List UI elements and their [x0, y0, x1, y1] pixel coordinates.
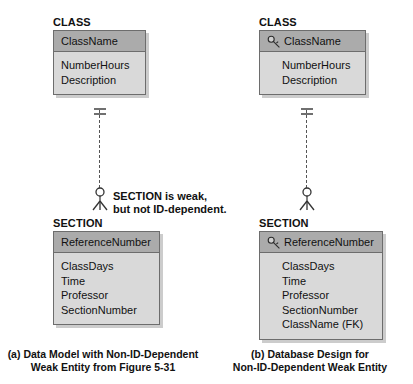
entity-header-class: ClassName: [54, 31, 145, 52]
entity-body-class: NumberHours Description: [54, 52, 145, 94]
figure-panel-a: CLASS ClassName NumberHours Description …: [0, 0, 206, 384]
entity-section: ReferenceNumber ClassDays Time Professor…: [53, 231, 160, 325]
entity-class-design: ClassName NumberHours Description: [259, 30, 366, 95]
attribute-key-referencenumber-design: ReferenceNumber: [284, 236, 374, 248]
attribute-time-design: Time: [282, 274, 375, 289]
attribute-description: Description: [61, 73, 138, 88]
annotation-weak-entity-line1: SECTION is weak,: [113, 190, 207, 204]
figure-panel-b: CLASS ClassName NumberHours Description: [207, 0, 413, 384]
attribute-sectionnumber-design: SectionNumber: [282, 303, 375, 318]
key-icon: [267, 35, 281, 48]
entity-header-section: ReferenceNumber: [54, 232, 159, 253]
entity-class: ClassName NumberHours Description: [53, 30, 146, 95]
attribute-key-classname: ClassName: [61, 35, 118, 47]
attribute-classname-fk-design: ClassName (FK): [282, 317, 375, 332]
entity-title-section: SECTION: [53, 217, 103, 229]
entity-body-section-design: ClassDays Time Professor SectionNumber C…: [260, 253, 382, 339]
entity-body-class-design: NumberHours Description: [260, 52, 365, 94]
entity-section-design: ReferenceNumber ClassDays Time Professor…: [259, 231, 383, 340]
entity-header-section-design: ReferenceNumber: [260, 232, 382, 253]
entity-title-section-design: SECTION: [259, 217, 309, 229]
crowfoot-parent-end-one-mandatory-design: [293, 104, 321, 124]
attribute-numberhours: NumberHours: [61, 58, 138, 73]
panel-caption-b-line2: Non-ID-Dependent Weak Entity: [207, 361, 413, 375]
crowfoot-child-end-optional-many-design: [293, 186, 321, 214]
panel-caption-a-line2: Weak Entity from Figure 5-31: [0, 361, 206, 375]
crowfoot-parent-end-one-mandatory: [86, 104, 114, 124]
attribute-description-design: Description: [282, 73, 358, 88]
attribute-numberhours-design: NumberHours: [282, 58, 358, 73]
entity-header-class-design: ClassName: [260, 31, 365, 52]
entity-title-class: CLASS: [53, 16, 91, 28]
crowfoot-child-end-optional-many: [86, 186, 114, 214]
attribute-key-referencenumber: ReferenceNumber: [61, 236, 151, 248]
attribute-classdays: ClassDays: [61, 259, 152, 274]
key-icon: [267, 236, 281, 249]
attribute-professor: Professor: [61, 288, 152, 303]
attribute-sectionnumber: SectionNumber: [61, 303, 152, 318]
attribute-professor-design: Professor: [282, 288, 375, 303]
attribute-time: Time: [61, 274, 152, 289]
panel-caption-a-line1: (a) Data Model with Non-ID-Dependent: [0, 348, 206, 362]
attribute-classdays-design: ClassDays: [282, 259, 375, 274]
entity-body-section: ClassDays Time Professor SectionNumber: [54, 253, 159, 324]
panel-caption-b-line1: (b) Database Design for: [207, 348, 413, 362]
attribute-key-classname-design: ClassName: [284, 35, 341, 47]
entity-title-class-design: CLASS: [259, 16, 297, 28]
